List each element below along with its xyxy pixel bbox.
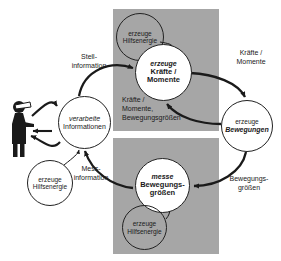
node-line-1: erzeuge [235,118,259,125]
node-verarbeite-informationen[interactable]: verarbeite Informationen [58,96,111,149]
diagram-canvas: Aktuator Sensor [0,0,281,261]
label-kraefte-momente-right: Kräfte /Momente [222,49,280,67]
node-line-2: Hilfsenergie [33,183,67,190]
node-line-1: erzeuge [133,220,157,227]
label-stell-information: Stell-information [59,53,119,71]
node-line-1: erzeuge [38,176,62,183]
node-line-3: Momente [147,76,180,84]
node-erzeuge-bewegungen[interactable]: erzeuge Bewegungen [221,100,273,152]
wire-kraefte-to-bewegungen [190,73,245,97]
node-line-1: erzeuge [128,30,152,37]
label-kraefte-momente-bewegungsgroessen: Kräfte /Momente,Bewegungsgrößen [122,96,198,122]
node-line-2: Informationen [63,123,106,131]
node-line-2: Bewegungen [225,126,269,134]
node-line-3: größen [150,189,175,197]
label-mess-information: Mess-information [62,165,120,183]
node-line-2: Hilfsenergie [123,37,157,44]
node-erzeuge-kraefte-momente[interactable]: erzeuge Kräfte / Momente [135,44,192,101]
person-figure [6,98,40,158]
node-line-1: verarbeite [69,115,100,123]
label-bewegungsgroessen-right: Bewegungs-größen [219,175,279,193]
node-erzeuge-hilfsenergie-bottom[interactable]: erzeuge Hilfsenergie [122,205,167,250]
wire-aux-left-to-verarbeite [64,150,79,165]
node-line-2: Hilfsenergie [127,228,161,235]
